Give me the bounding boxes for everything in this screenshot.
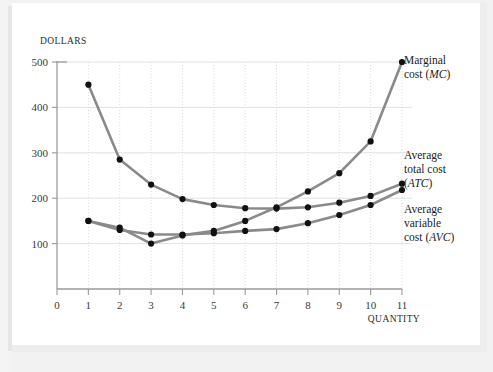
x-axis-title: QUANTITY <box>368 314 420 324</box>
y-tick-label: 500 <box>32 56 49 68</box>
legend-mc-text: cost ( <box>404 68 429 81</box>
data-point-avc <box>368 202 374 208</box>
data-point-avc <box>148 231 154 237</box>
data-point-mc <box>273 204 279 210</box>
legend-mc-line1: Marginal <box>404 54 446 67</box>
x-tick-label: 2 <box>117 299 123 311</box>
data-point-avc <box>336 212 342 218</box>
data-point-mc <box>305 188 311 194</box>
data-point-atc <box>179 196 185 202</box>
data-point-atc <box>211 202 217 208</box>
x-tick-label: 6 <box>242 299 248 311</box>
x-tick-label: 10 <box>365 299 377 311</box>
tick-marks-layer <box>52 62 402 295</box>
legend-marginal-cost: Marginal cost (MC) <box>404 54 450 81</box>
x-tick-label: 9 <box>337 299 343 311</box>
y-axis-title: DOLLARS <box>40 36 87 46</box>
x-tick-label: 8 <box>305 299 311 311</box>
data-point-mc <box>179 232 185 238</box>
data-point-mc <box>211 228 217 234</box>
data-point-mc <box>368 138 374 144</box>
legend-avc-line1: Average <box>404 203 442 216</box>
data-point-avc <box>273 226 279 232</box>
data-point-mc <box>85 218 91 224</box>
data-point-mc <box>148 241 154 247</box>
data-point-atc <box>336 200 342 206</box>
y-tick-label: 400 <box>32 101 49 113</box>
legend-mc-line2: cost (MC) <box>404 68 450 81</box>
data-point-atc <box>242 205 248 211</box>
legend-atc-line1: Average <box>404 149 442 162</box>
legend-average-total-cost: Average total cost (ATC) <box>404 149 447 190</box>
x-tick-label: 3 <box>148 299 154 311</box>
data-point-avc <box>305 220 311 226</box>
data-point-atc <box>117 157 123 163</box>
data-point-atc <box>305 204 311 210</box>
x-tick-labels: 01234567891011 <box>54 299 407 311</box>
x-tick-label: 7 <box>274 299 280 311</box>
y-tick-label: 100 <box>32 238 49 250</box>
y-tick-label: 300 <box>32 147 49 159</box>
data-point-atc <box>368 193 374 199</box>
legend-average-variable-cost: Average variable cost (AVC) <box>404 203 454 244</box>
y-tick-labels: 100200300400500 <box>32 56 49 250</box>
cost-curves-chart: 100200300400500 01234567891011 DOLLARS Q… <box>0 0 493 372</box>
data-point-mc <box>242 218 248 224</box>
data-point-atc <box>148 182 154 188</box>
x-tick-label: 0 <box>54 299 60 311</box>
x-tick-label: 5 <box>211 299 217 311</box>
data-point-avc <box>242 228 248 234</box>
legend-avc-line2: variable <box>404 217 441 229</box>
y-tick-label: 200 <box>32 192 49 204</box>
x-tick-label: 11 <box>397 299 408 311</box>
legend-atc-line3: (ATC) <box>404 177 433 190</box>
x-tick-label: 4 <box>180 299 186 311</box>
data-point-mc <box>336 170 342 176</box>
data-point-atc <box>85 82 91 88</box>
figure-root: 100200300400500 01234567891011 DOLLARS Q… <box>0 0 493 372</box>
grid-layer <box>57 62 412 289</box>
data-point-mc <box>117 225 123 231</box>
legend-avc-line3: cost (AVC) <box>404 231 454 244</box>
axes-layer <box>57 61 402 289</box>
x-tick-label: 1 <box>86 299 92 311</box>
legend-atc-line2: total cost <box>404 163 447 175</box>
